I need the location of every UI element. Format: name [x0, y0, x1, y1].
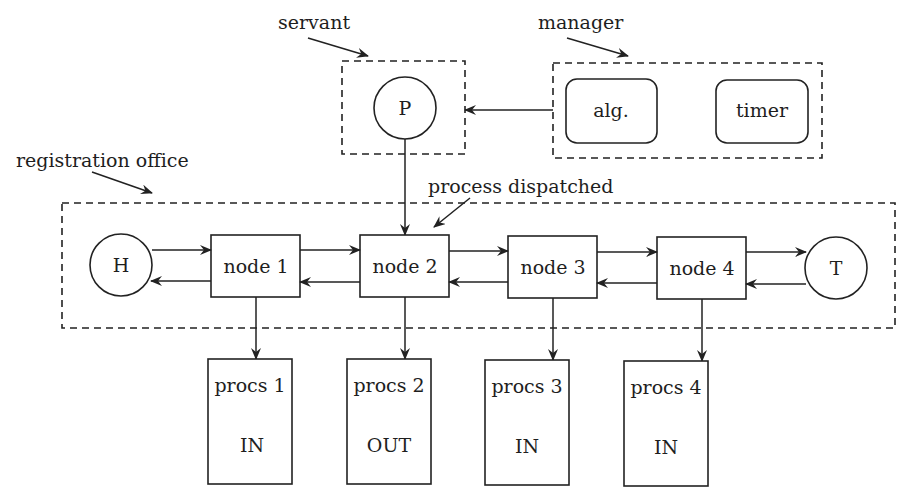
procs-4-state: IN [654, 436, 678, 458]
node-3-label: node 3 [520, 256, 585, 278]
process-registration-diagram: servant P manager alg. timer registratio… [0, 0, 914, 503]
procs-1-state: IN [240, 434, 264, 456]
servant-process-label: P [399, 97, 412, 119]
procs-2-state: OUT [367, 434, 412, 456]
procs-4-label: procs 4 [630, 376, 701, 398]
registration-office-label: registration office [16, 149, 189, 171]
registration-office-boundary [62, 203, 895, 328]
registration-office-group: registration office process dispatched H… [16, 149, 895, 328]
node-2-label: node 2 [372, 255, 437, 277]
node-4-label: node 4 [669, 257, 734, 279]
procs-2: procs 2 OUT [347, 359, 431, 484]
procs-1-label: procs 1 [214, 374, 285, 396]
procs-3-label: procs 3 [491, 375, 562, 397]
procs-1: procs 1 IN [208, 359, 292, 484]
procs-3: procs 3 IN [485, 360, 569, 485]
procs-3-state: IN [515, 435, 539, 457]
timer-label: timer [736, 99, 789, 121]
registration-office-pointer-arrow [92, 172, 152, 193]
servant-group: servant P [278, 11, 465, 154]
manager-label: manager [538, 11, 624, 33]
manager-pointer-arrow [567, 38, 628, 56]
servant-pointer-arrow [308, 38, 368, 56]
procs-4: procs 4 IN [624, 361, 708, 486]
node-1-label: node 1 [223, 255, 288, 277]
alg-label: alg. [593, 99, 629, 121]
manager-group: manager alg. timer [538, 11, 822, 158]
servant-label: servant [278, 11, 350, 33]
process-dispatched-label: process dispatched [428, 175, 614, 197]
head-label: H [113, 254, 130, 276]
procs-2-label: procs 2 [353, 374, 424, 396]
tail-label: T [830, 257, 843, 279]
